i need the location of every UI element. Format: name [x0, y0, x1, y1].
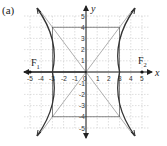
svg-text:3: 3 [81, 35, 85, 42]
svg-text:1: 1 [96, 75, 100, 82]
focus-f1-point [28, 70, 31, 73]
svg-text:-1: -1 [79, 80, 85, 87]
svg-text:-5: -5 [79, 125, 85, 132]
svg-text:3: 3 [118, 75, 122, 82]
svg-text:5: 5 [81, 13, 85, 20]
svg-text:2: 2 [107, 75, 111, 82]
svg-text:5: 5 [140, 75, 144, 82]
focus-f2-point [140, 70, 143, 73]
y-axis-label: y [90, 3, 96, 14]
svg-text:-4: -4 [79, 113, 85, 120]
hyperbola-diagram: (a) x y F1 F2 -5 -4 -3 -2 -1 0 1 2 3 4 5… [0, 0, 167, 146]
svg-text:2: 2 [81, 46, 85, 53]
svg-text:-2: -2 [79, 91, 85, 98]
svg-text:-3: -3 [49, 75, 55, 82]
x-tick-labels: -5 -4 -3 -2 -1 0 1 2 3 4 5 [27, 75, 144, 82]
svg-text:-1: -1 [72, 75, 78, 82]
svg-text:-2: -2 [61, 75, 67, 82]
panel-label: (a) [2, 4, 15, 17]
focus-f2-label: F2 [138, 55, 147, 68]
svg-text:-4: -4 [38, 75, 44, 82]
focus-f1-label: F1 [31, 57, 40, 70]
svg-text:4: 4 [81, 24, 85, 31]
svg-text:-3: -3 [79, 102, 85, 109]
svg-text:4: 4 [129, 75, 133, 82]
svg-text:1: 1 [81, 57, 85, 64]
svg-text:-5: -5 [27, 75, 33, 82]
x-axis-label: x [154, 67, 160, 78]
